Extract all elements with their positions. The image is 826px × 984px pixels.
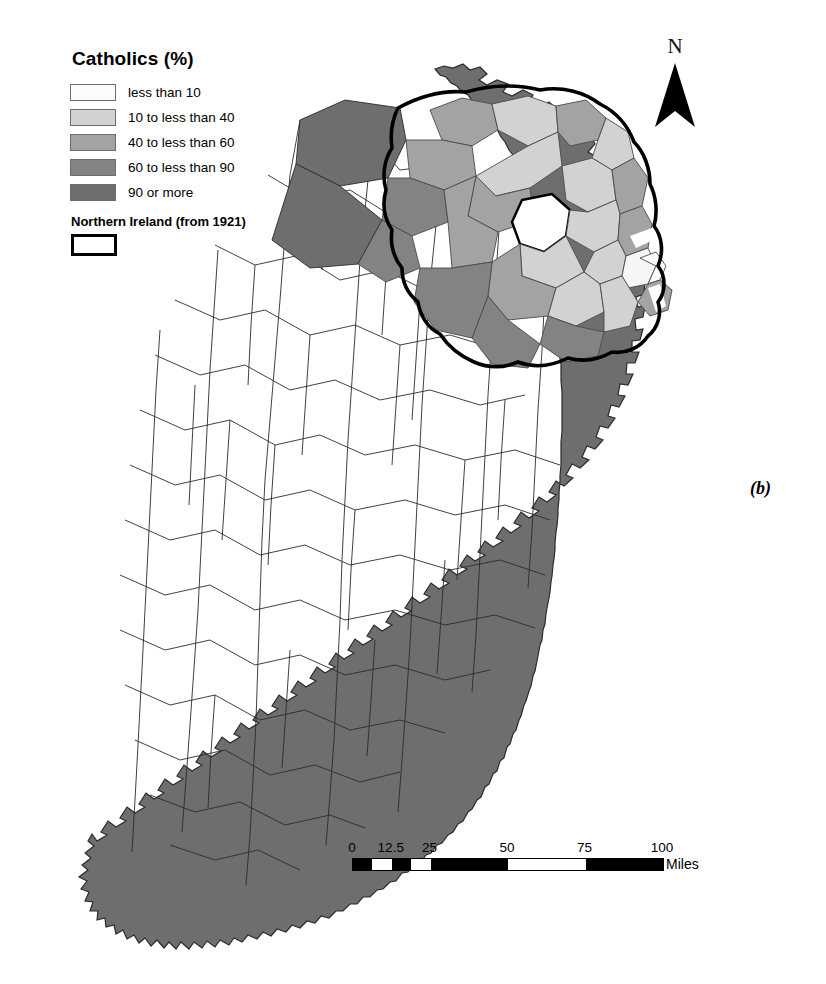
legend-item: 90 or more — [70, 180, 320, 205]
scale-segment — [508, 859, 586, 870]
scale-segment — [372, 859, 391, 870]
scale-tick-4: 75 — [577, 840, 592, 855]
legend-item: 40 to less than 60 — [70, 130, 320, 155]
legend-boundary-note: Northern Ireland (from 1921) — [71, 214, 320, 229]
scale-tick-0: 0 — [348, 840, 356, 855]
scale-segment — [431, 859, 509, 870]
legend-item: 60 to less than 90 — [70, 155, 320, 180]
scale-segment — [392, 859, 411, 870]
legend-label-3: 60 to less than 90 — [128, 160, 235, 175]
legend-item: 10 to less than 40 — [70, 105, 320, 130]
scale-units-label: Miles — [666, 856, 699, 872]
panel-label: (b) — [750, 478, 771, 499]
legend-swatch-2 — [70, 134, 116, 151]
legend-label-2: 40 to less than 60 — [128, 135, 235, 150]
legend-label-1: 10 to less than 40 — [128, 110, 235, 125]
scale-tick-3: 50 — [499, 840, 514, 855]
scale-tick-1: 12.5 — [378, 840, 404, 855]
scale-segment — [353, 859, 372, 870]
legend-swatch-1 — [70, 109, 116, 126]
scale-tick-2: 25 — [422, 840, 437, 855]
scale-tick-labels: 0 12.5 25 50 75 100 — [352, 840, 662, 858]
legend-label-0: less than 10 — [128, 85, 201, 100]
map-figure: Catholics (%) less than 10 10 to less th… — [0, 0, 826, 984]
scale-bar: 0 12.5 25 50 75 100 Miles — [352, 840, 662, 871]
legend-swatch-4 — [70, 184, 116, 201]
legend-item: less than 10 — [70, 80, 320, 105]
legend-boundary-swatch — [71, 234, 117, 256]
north-arrow-letter: N — [645, 36, 705, 57]
scale-segment — [586, 859, 664, 870]
scale-bar-segments — [352, 858, 664, 871]
scale-tick-5: 100 — [651, 840, 674, 855]
scale-segment — [411, 859, 430, 870]
north-arrow-icon — [651, 61, 699, 131]
north-arrow: N — [645, 36, 705, 135]
legend-swatch-3 — [70, 159, 116, 176]
legend-label-4: 90 or more — [128, 185, 193, 200]
legend: Catholics (%) less than 10 10 to less th… — [70, 48, 320, 256]
legend-title: Catholics (%) — [72, 48, 320, 70]
legend-swatch-0 — [70, 84, 116, 101]
